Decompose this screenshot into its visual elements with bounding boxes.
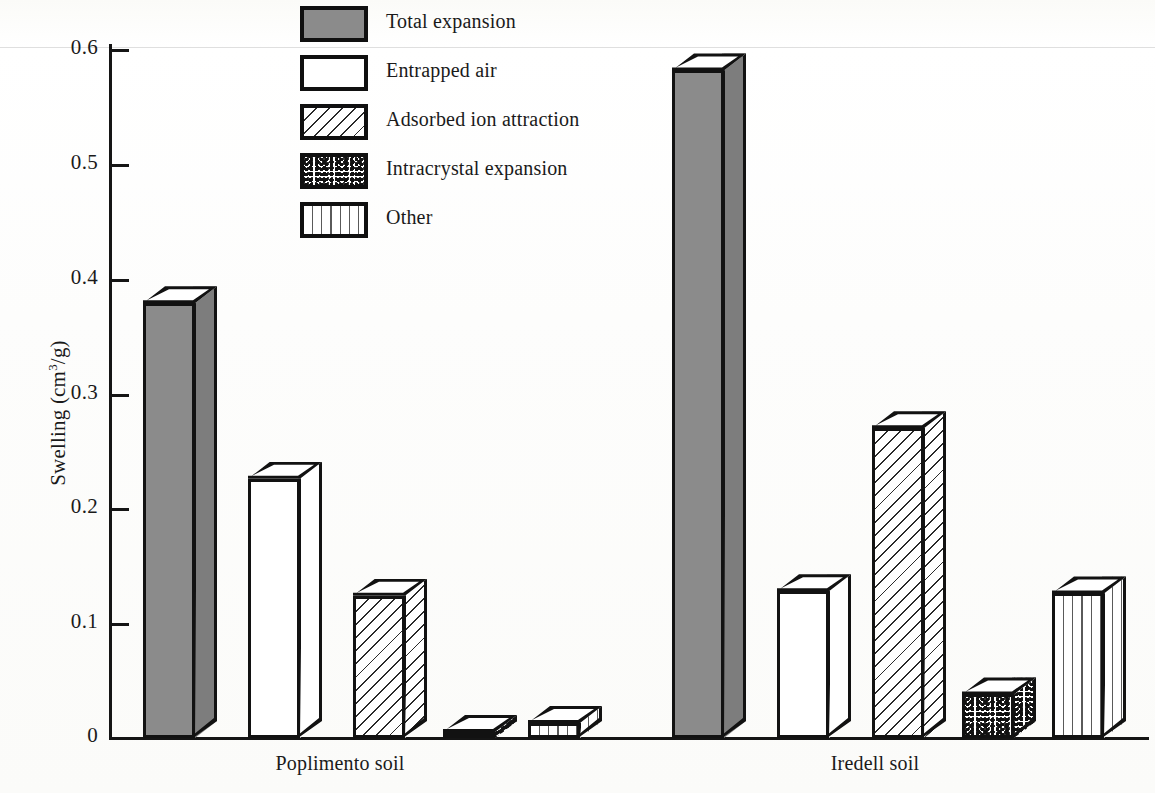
legend-label-total-expansion: Total expansion	[386, 10, 516, 33]
bar-front-face	[672, 70, 724, 738]
bar-front-face	[777, 591, 829, 738]
bar-total-expansion-group2	[672, 53, 746, 738]
bar-chart: Swelling (cm3/g) 0.6 0.5 0.4 0.3 0.2 0.1…	[0, 0, 1155, 793]
bar-side-face	[195, 286, 217, 738]
y-tick-0.5	[112, 164, 129, 167]
bar-intracrystal-expansion-group1	[443, 715, 517, 738]
bar-side-face	[300, 462, 322, 738]
y-tick-0.4	[112, 279, 129, 282]
white-swatch-icon	[300, 55, 368, 91]
bar-side-face	[924, 411, 946, 738]
bar-front-face	[248, 479, 300, 738]
bar-front-face	[528, 723, 580, 738]
scan-artifact-line	[0, 47, 1155, 48]
y-axis-title-exponent: 3	[45, 364, 60, 371]
bar-front-face	[143, 303, 195, 738]
bar-front-face	[1052, 593, 1104, 738]
bar-entrapped-air-group2	[777, 574, 851, 738]
y-tick-label-0.5: 0.5	[38, 150, 98, 175]
bar-adsorbed-ion-attraction-group2	[872, 411, 946, 738]
bar-side-face	[724, 53, 746, 738]
legend-label-other: Other	[386, 206, 433, 229]
bar-side-face	[1104, 576, 1126, 738]
y-axis-title-post: /g)	[46, 340, 70, 364]
bar-front-face	[962, 694, 1014, 738]
vertical-hatch-swatch-icon	[300, 202, 368, 238]
bar-side-face	[405, 579, 427, 738]
y-axis-line	[109, 44, 112, 740]
legend-label-entrapped-air: Entrapped air	[386, 59, 497, 82]
solid-gray-swatch-icon	[300, 6, 368, 42]
bar-side-face	[829, 574, 851, 738]
bar-intracrystal-expansion-group2	[962, 677, 1036, 738]
legend-label-intracrystal-expansion: Intracrystal expansion	[386, 157, 568, 180]
diagonal-hatch-swatch-icon	[300, 104, 368, 140]
y-tick-label-0.4: 0.4	[38, 265, 98, 290]
bar-other-group1	[528, 706, 602, 738]
bar-entrapped-air-group1	[248, 462, 322, 738]
y-tick-label-0.2: 0.2	[38, 494, 98, 519]
bar-adsorbed-ion-attraction-group1	[353, 579, 427, 738]
bar-total-expansion-group1	[143, 286, 217, 738]
bar-front-face	[443, 732, 495, 738]
y-tick-label-0.6: 0.6	[38, 35, 98, 60]
y-tick-0.6	[112, 49, 129, 52]
y-tick-0.1	[112, 623, 129, 626]
x-category-label-group1: Poplimento soil	[210, 752, 470, 775]
y-tick-0.2	[112, 508, 129, 511]
y-tick-label-0.1: 0.1	[38, 609, 98, 634]
bar-front-face	[353, 596, 405, 738]
y-tick-label-0.3: 0.3	[38, 380, 98, 405]
bar-other-group2	[1052, 576, 1126, 738]
y-tick-0.3	[112, 394, 129, 397]
legend-label-adsorbed-ion-attraction: Adsorbed ion attraction	[386, 108, 579, 131]
x-category-label-group2: Iredell soil	[760, 752, 990, 775]
stipple-swatch-icon	[300, 153, 368, 189]
bar-front-face	[872, 428, 924, 738]
y-tick-label-0: 0	[38, 723, 98, 748]
